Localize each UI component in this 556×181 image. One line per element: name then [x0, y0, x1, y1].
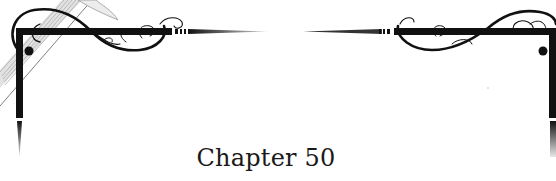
speck — [487, 87, 489, 89]
left-corner-flourish-icon — [16, 28, 268, 158]
chapter-header: Chapter 50 — [0, 0, 556, 181]
chapter-title: Chapter 50 — [0, 146, 532, 170]
right-corner-flourish-icon — [303, 28, 556, 157]
